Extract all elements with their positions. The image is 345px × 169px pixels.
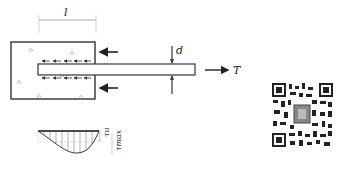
embed-length-label: l xyxy=(64,6,68,19)
pullout-diagram: l d T xyxy=(0,0,345,169)
pull-force-label: T xyxy=(233,64,242,77)
bar-diameter-label: d xyxy=(176,44,183,57)
rebar xyxy=(38,64,195,75)
bond-stress-distribution xyxy=(38,131,112,154)
bond-stress-avg-label: τu xyxy=(102,127,111,137)
embed-length-dimension: l xyxy=(39,6,96,33)
qr-code xyxy=(272,83,333,147)
bond-stress-max-label: τmax xyxy=(114,129,123,151)
